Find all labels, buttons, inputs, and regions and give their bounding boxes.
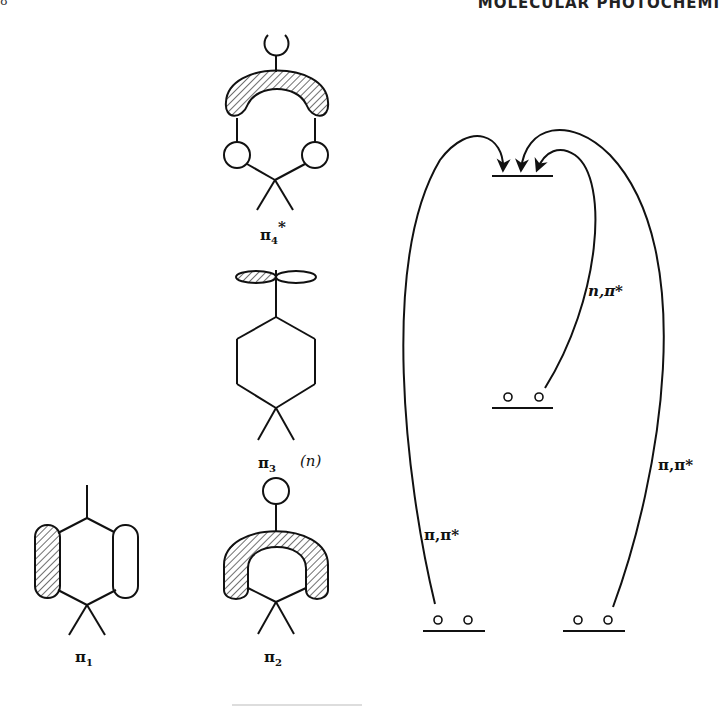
label-pi1: π1 <box>75 648 93 668</box>
hatched-lobe-icon <box>35 525 60 598</box>
open-p-lobe-icon <box>276 271 316 283</box>
open-lobe-icon <box>113 525 138 598</box>
transition-pi-pi-star-right <box>521 130 664 607</box>
label-pi3-n: (n) <box>300 452 322 470</box>
label-pi2: π2 <box>264 648 282 668</box>
orbital-pi4-star <box>224 35 328 210</box>
hatched-horseshoe-icon <box>224 531 328 599</box>
orbital-pi2 <box>224 478 328 634</box>
label-pi3: π3 <box>258 454 276 474</box>
transition-n-pi-star <box>537 150 595 388</box>
label-pi4-star: π4* <box>260 218 286 246</box>
label-pi-pi-star-left: π,π* <box>424 526 459 544</box>
hatched-lobe-icon <box>226 71 328 116</box>
orbital-pi1 <box>35 485 138 635</box>
hatched-p-lobe-icon <box>236 271 276 283</box>
top-lobe-icon <box>265 35 289 55</box>
label-n-pi-star: n,π* <box>588 282 623 300</box>
orbital-pi3 <box>236 270 316 440</box>
energy-diagram <box>403 130 663 631</box>
label-pi-pi-star-right: π,π* <box>658 456 693 474</box>
top-lobe-icon <box>263 478 289 504</box>
